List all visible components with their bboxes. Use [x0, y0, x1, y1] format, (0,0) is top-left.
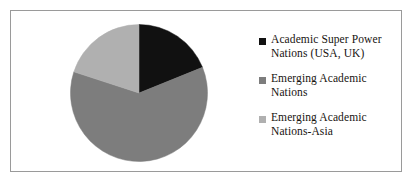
- legend-item-emerging-academic-nations: Emerging Academic Nations: [259, 72, 399, 99]
- legend-swatch-icon: [259, 77, 266, 84]
- pie-slice-group: [70, 24, 207, 161]
- legend-item-emerging-academic-nations-asia: Emerging Academic Nations-Asia: [259, 111, 399, 138]
- legend-item-label: Emerging Academic Nations-Asia: [271, 111, 367, 138]
- legend-item-academic-super-power-nations: Academic Super Power Nations (USA, UK): [259, 33, 399, 60]
- legend-swatch-icon: [259, 116, 266, 123]
- pie-chart-figure: Academic Super Power Nations (USA, UK) E…: [0, 0, 415, 186]
- pie-chart-graphic: [70, 24, 208, 162]
- legend-item-label: Academic Super Power Nations (USA, UK): [271, 33, 382, 60]
- chart-legend: Academic Super Power Nations (USA, UK) E…: [259, 33, 399, 150]
- pie-svg: [70, 24, 208, 162]
- legend-item-label: Emerging Academic Nations: [271, 72, 367, 99]
- legend-swatch-icon: [259, 38, 266, 45]
